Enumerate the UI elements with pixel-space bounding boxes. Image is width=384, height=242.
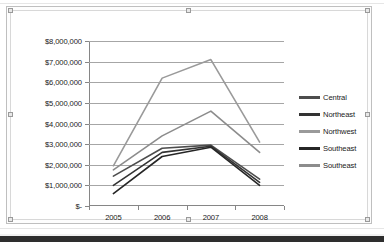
- resize-handle-middle-left[interactable]: [8, 112, 13, 117]
- x-axis-tick: [138, 206, 139, 210]
- x-axis-tick: [89, 206, 90, 210]
- y-axis-label: $6,000,000: [45, 78, 82, 87]
- x-axis-tick: [187, 206, 188, 210]
- resize-handle-middle-right[interactable]: [365, 112, 370, 117]
- y-axis-label: $1,000,000: [45, 181, 82, 190]
- chart-plot-frame: $-$1,000,000$2,000,000$3,000,000$4,000,0…: [10, 10, 368, 220]
- legend-item[interactable]: Southeast: [299, 140, 356, 157]
- resize-handle-bottom-left[interactable]: [8, 217, 13, 222]
- legend-swatch-icon: [299, 147, 320, 150]
- resize-handle-top-right[interactable]: [365, 8, 370, 13]
- legend-label: Southeast: [323, 161, 356, 170]
- chart-legend: CentralNortheastNorthwestSoutheastSouthe…: [299, 89, 356, 174]
- legend-label: Northeast: [323, 110, 355, 119]
- page-bottom-band: [0, 236, 384, 242]
- y-axis-label: $-: [75, 202, 82, 211]
- x-axis-tick: [235, 206, 236, 210]
- legend-swatch-icon: [299, 164, 320, 167]
- y-axis-label: $3,000,000: [45, 140, 82, 149]
- series-line-4: [113, 111, 259, 170]
- x-axis-label: 2008: [251, 213, 268, 222]
- legend-swatch-icon: [299, 113, 320, 116]
- x-axis-label: 2006: [154, 213, 171, 222]
- y-axis-label: $7,000,000: [45, 57, 82, 66]
- series-lines: [89, 41, 284, 206]
- legend-label: Northwest: [323, 127, 356, 136]
- y-axis-label: $2,000,000: [45, 160, 82, 169]
- series-line-0: [113, 145, 259, 179]
- x-axis-label: 2007: [203, 213, 220, 222]
- legend-item[interactable]: Northwest: [299, 123, 356, 140]
- resize-handle-bottom-center[interactable]: [186, 217, 191, 222]
- legend-swatch-icon: [299, 130, 320, 133]
- x-axis-label: 2005: [105, 213, 122, 222]
- resize-handle-top-center[interactable]: [186, 8, 191, 13]
- y-axis-label: $8,000,000: [45, 37, 82, 46]
- legend-item[interactable]: Central: [299, 89, 356, 106]
- y-axis-label: $4,000,000: [45, 119, 82, 128]
- page-rule: [0, 3, 384, 4]
- legend-item[interactable]: Northeast: [299, 106, 356, 123]
- resize-handle-top-left[interactable]: [8, 8, 13, 13]
- screenshot-root: $-$1,000,000$2,000,000$3,000,000$4,000,0…: [0, 0, 384, 242]
- resize-handle-bottom-right[interactable]: [365, 217, 370, 222]
- legend-item[interactable]: Southeast: [299, 157, 356, 174]
- legend-label: Southeast: [323, 144, 356, 153]
- legend-swatch-icon: [299, 96, 320, 99]
- legend-label: Central: [323, 93, 347, 102]
- chart: $-$1,000,000$2,000,000$3,000,000$4,000,0…: [21, 21, 357, 211]
- embedded-chart-object[interactable]: $-$1,000,000$2,000,000$3,000,000$4,000,0…: [6, 6, 372, 224]
- page-rule: [0, 228, 384, 229]
- y-axis-label: $5,000,000: [45, 98, 82, 107]
- plot-area: $-$1,000,000$2,000,000$3,000,000$4,000,0…: [89, 41, 284, 206]
- x-axis-tick: [284, 206, 285, 210]
